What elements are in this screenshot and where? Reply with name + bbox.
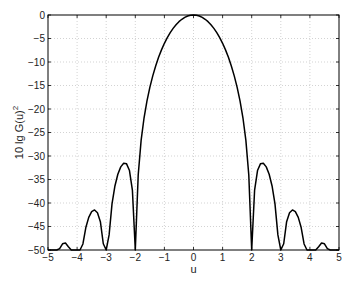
x-tick-label: 3	[278, 252, 284, 263]
x-axis-label: u	[190, 263, 196, 275]
y-tick-label: −50	[28, 245, 45, 256]
y-tick-label: −5	[34, 33, 46, 44]
x-tick-label: 4	[307, 252, 313, 263]
y-tick-label: −40	[28, 198, 45, 209]
x-tick-label: −3	[100, 252, 112, 263]
y-tick-label: −10	[28, 57, 45, 68]
y-axis-label: 10 lg G(u)2	[11, 105, 25, 159]
plot-area	[48, 15, 339, 250]
x-tick-label: −2	[130, 252, 142, 263]
chart: −5−4−3−2−1012345 0−5−10−15−20−25−30−35−4…	[0, 0, 358, 285]
y-axis-label-superscript: 2	[11, 105, 20, 110]
x-tick-label: −1	[159, 252, 171, 263]
y-tick-label: −30	[28, 151, 45, 162]
y-tick-label: −25	[28, 127, 45, 138]
y-tick-label: −20	[28, 104, 45, 115]
y-tick-label: −35	[28, 174, 45, 185]
x-tick-label: 5	[336, 252, 342, 263]
x-tick-label: 0	[191, 252, 197, 263]
y-tick-label: 0	[39, 10, 45, 21]
y-tick-label: −45	[28, 221, 45, 232]
x-tick-label: −4	[71, 252, 83, 263]
y-tick-label: −15	[28, 80, 45, 91]
x-tick-label: 2	[249, 252, 255, 263]
x-tick-label: 1	[220, 252, 226, 263]
